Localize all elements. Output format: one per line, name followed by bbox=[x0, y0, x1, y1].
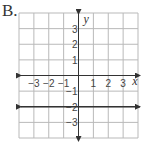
x-tick-label: 3 bbox=[120, 78, 126, 89]
y-tick-label: −1 bbox=[66, 86, 78, 97]
x-tick-label: −3 bbox=[28, 78, 40, 89]
y-tick-label: 2 bbox=[72, 39, 78, 50]
x-tick-label: 1 bbox=[91, 78, 97, 89]
y-tick-label: 3 bbox=[72, 24, 78, 35]
x-tick-label: −2 bbox=[43, 78, 55, 89]
y-axis-label: y bbox=[83, 12, 90, 26]
x-axis-label: x bbox=[131, 74, 138, 88]
x-tick-label: 2 bbox=[105, 78, 111, 89]
y-tick-label: −3 bbox=[66, 117, 78, 128]
y-tick-label: 1 bbox=[72, 55, 78, 66]
axes: xy bbox=[21, 12, 140, 141]
coordinate-plane: xy −3−2−1123321−1−2−3 bbox=[0, 0, 151, 149]
